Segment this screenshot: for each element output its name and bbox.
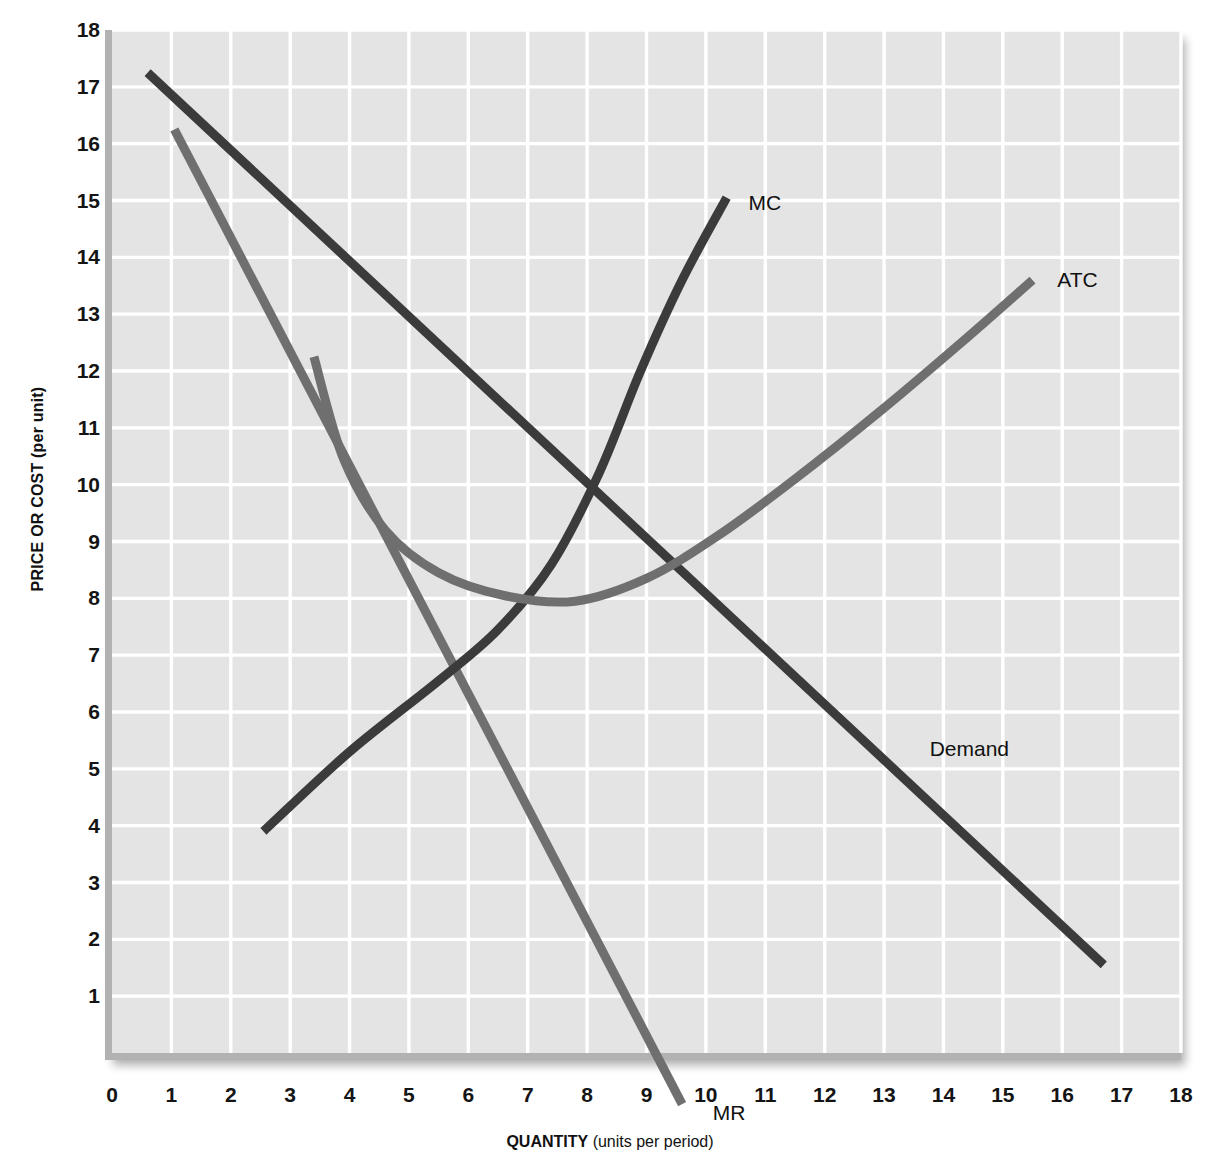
x-tick-18: 18 — [1161, 1084, 1201, 1105]
curve-label-mr: MR — [713, 1102, 746, 1123]
x-tick-3: 3 — [270, 1084, 310, 1105]
x-tick-12: 12 — [805, 1084, 845, 1105]
x-tick-8: 8 — [567, 1084, 607, 1105]
x-tick-13: 13 — [864, 1084, 904, 1105]
x-axis-title-bold: QUANTITY — [506, 1133, 588, 1150]
curve-mr — [174, 129, 682, 1104]
y-tick-5: 5 — [54, 758, 100, 779]
x-tick-6: 6 — [448, 1084, 488, 1105]
curve-label-mc: MC — [748, 192, 781, 213]
y-tick-11: 11 — [54, 417, 100, 438]
y-tick-16: 16 — [54, 133, 100, 154]
x-axis-title-rest: (units per period) — [588, 1133, 713, 1150]
y-tick-2: 2 — [54, 928, 100, 949]
chart-canvas: 123456789101112131415161718 012345678910… — [0, 0, 1220, 1161]
x-tick-7: 7 — [508, 1084, 548, 1105]
y-tick-4: 4 — [54, 815, 100, 836]
y-tick-13: 13 — [54, 303, 100, 324]
y-tick-12: 12 — [54, 360, 100, 381]
x-tick-1: 1 — [151, 1084, 191, 1105]
y-tick-9: 9 — [54, 531, 100, 552]
x-tick-15: 15 — [983, 1084, 1023, 1105]
y-tick-17: 17 — [54, 76, 100, 97]
y-tick-18: 18 — [54, 19, 100, 40]
y-tick-15: 15 — [54, 190, 100, 211]
x-tick-2: 2 — [211, 1084, 251, 1105]
x-tick-5: 5 — [389, 1084, 429, 1105]
y-tick-8: 8 — [54, 587, 100, 608]
y-tick-3: 3 — [54, 872, 100, 893]
x-tick-4: 4 — [330, 1084, 370, 1105]
curve-label-demand: Demand — [930, 738, 1009, 759]
curve-label-atc: ATC — [1057, 269, 1097, 290]
x-tick-16: 16 — [1042, 1084, 1082, 1105]
y-tick-14: 14 — [54, 246, 100, 267]
y-tick-1: 1 — [54, 985, 100, 1006]
y-tick-6: 6 — [54, 701, 100, 722]
x-tick-0: 0 — [92, 1084, 132, 1105]
data-curves — [0, 0, 1220, 1161]
x-tick-9: 9 — [627, 1084, 667, 1105]
curve-demand — [148, 73, 1104, 965]
y-tick-10: 10 — [54, 474, 100, 495]
x-tick-11: 11 — [745, 1084, 785, 1105]
x-tick-17: 17 — [1102, 1084, 1142, 1105]
y-tick-7: 7 — [54, 644, 100, 665]
x-tick-14: 14 — [923, 1084, 963, 1105]
y-axis-title: PRICE OR COST (per unit) — [29, 359, 47, 619]
x-axis-title: QUANTITY (units per period) — [330, 1133, 890, 1151]
